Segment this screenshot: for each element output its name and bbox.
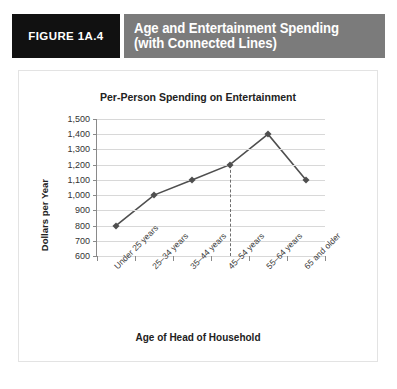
x-tick-mark xyxy=(325,256,326,261)
chart-title: Per-Person Spending on Entertainment xyxy=(19,91,377,103)
figure-title-line-2: (with Connected Lines) xyxy=(134,36,370,52)
plot-area: 1,5001,4001,3001,2001,1001,0009008007006… xyxy=(97,119,325,256)
x-tick-mark xyxy=(249,256,250,261)
gridline xyxy=(97,226,325,227)
x-axis-title: Age of Head of Household xyxy=(19,332,377,343)
y-tick-label: 1,300 xyxy=(67,144,90,154)
x-tick-mark xyxy=(135,256,136,261)
x-tick-mark xyxy=(287,256,288,261)
y-tick-label: 1,100 xyxy=(67,175,90,185)
figure-number-badge: FIGURE 1A.4 xyxy=(12,14,120,58)
y-tick-label: 1,200 xyxy=(67,160,90,170)
gridline xyxy=(97,149,325,150)
gridline xyxy=(97,210,325,211)
gridline xyxy=(97,165,325,166)
gridline xyxy=(97,119,325,120)
y-axis-title: Dollars per Year xyxy=(39,179,53,251)
figure-header: FIGURE 1A.4 Age and Entertainment Spendi… xyxy=(12,14,385,58)
gridline xyxy=(97,195,325,196)
y-tick-label: 1,500 xyxy=(67,114,90,124)
figure-title-bar: Age and Entertainment Spending (with Con… xyxy=(124,14,385,58)
x-tick-mark xyxy=(211,256,212,261)
figure-title-line-1: Age and Entertainment Spending xyxy=(134,21,370,37)
x-tick-mark xyxy=(97,256,98,261)
gridline xyxy=(97,134,325,135)
y-tick-label: 700 xyxy=(75,236,90,246)
y-tick-mark xyxy=(93,134,97,135)
y-tick-label: 800 xyxy=(75,221,90,231)
x-tick-mark xyxy=(173,256,174,261)
y-tick-mark xyxy=(93,165,97,166)
y-tick-label: 1,000 xyxy=(67,190,90,200)
y-tick-label: 900 xyxy=(75,205,90,215)
reference-dashed-line xyxy=(230,165,231,256)
chart-panel: Per-Person Spending on Entertainment Dol… xyxy=(18,70,378,362)
y-tick-mark xyxy=(93,119,97,120)
y-tick-mark xyxy=(93,195,97,196)
y-tick-label: 600 xyxy=(75,251,90,261)
y-tick-mark xyxy=(93,180,97,181)
gridline xyxy=(97,180,325,181)
y-tick-label: 1,400 xyxy=(67,129,90,139)
y-tick-mark xyxy=(93,210,97,211)
y-tick-mark xyxy=(93,226,97,227)
y-tick-mark xyxy=(93,149,97,150)
y-tick-mark xyxy=(93,241,97,242)
